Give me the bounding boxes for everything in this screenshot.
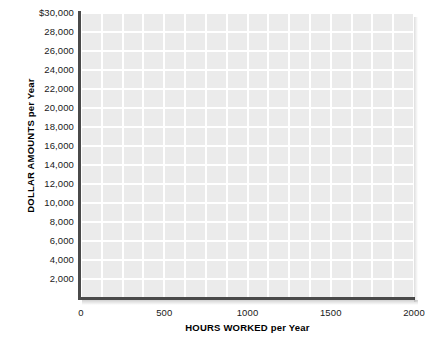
chart-figure: 2,0004,0006,0008,00010,00012,00014,00016… bbox=[0, 0, 441, 352]
y-axis-tick-label: 22,000 bbox=[2, 84, 74, 94]
y-axis-tick-label: 14,000 bbox=[2, 160, 74, 170]
y-axis-tick-label: 18,000 bbox=[2, 122, 74, 132]
x-axis-tick-label: 1000 bbox=[237, 307, 259, 318]
plot-area bbox=[81, 13, 414, 298]
y-axis-line bbox=[78, 11, 81, 300]
x-axis-title: HOURS WORKED per Year bbox=[81, 322, 414, 333]
y-axis-tick-label: 12,000 bbox=[2, 179, 74, 189]
y-axis-tick-label: 16,000 bbox=[2, 141, 74, 151]
gridlines bbox=[81, 13, 414, 298]
plot-right-shadow bbox=[414, 17, 418, 302]
axis-title-main: DOLLAR AMOUNTS bbox=[25, 120, 36, 213]
axis-title-main: HOURS WORKED bbox=[185, 322, 268, 333]
x-axis-tick-label: 0 bbox=[78, 307, 83, 318]
y-axis-tick-label: $30,000 bbox=[2, 8, 74, 18]
y-axis-title: DOLLAR AMOUNTS per Year bbox=[25, 36, 36, 256]
y-axis-tick-labels: 2,0004,0006,0008,00010,00012,00014,00016… bbox=[0, 0, 74, 352]
y-axis-tick-label: 24,000 bbox=[2, 65, 74, 75]
y-axis-tick-label: 8,000 bbox=[2, 217, 74, 227]
y-axis-tick-label: 6,000 bbox=[2, 236, 74, 246]
y-axis-tick-label: 20,000 bbox=[2, 103, 74, 113]
y-axis-tick-label: 4,000 bbox=[2, 255, 74, 265]
y-axis-tick-label: 28,000 bbox=[2, 27, 74, 37]
y-axis-tick-label: 26,000 bbox=[2, 46, 74, 56]
y-axis-tick-label: 10,000 bbox=[2, 198, 74, 208]
axis-title-suffix: per Year bbox=[25, 78, 36, 120]
axis-drop-shadow bbox=[82, 300, 418, 305]
x-axis-tick-label: 500 bbox=[156, 307, 172, 318]
x-axis-tick-label: 1500 bbox=[320, 307, 342, 318]
axis-title-suffix: per Year bbox=[268, 322, 310, 333]
y-axis-tick-label: 2,000 bbox=[2, 274, 74, 284]
x-axis-tick-label: 2000 bbox=[403, 307, 425, 318]
